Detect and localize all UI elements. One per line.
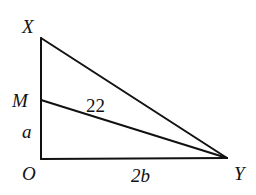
length-label-MY: 22 [86, 95, 105, 116]
point-label-M: M [11, 90, 29, 111]
segment-XY [41, 38, 227, 158]
segment-MY [41, 100, 227, 158]
point-label-X: X [21, 16, 35, 37]
length-label-OM: a [22, 121, 32, 142]
length-label-OY: 2b [131, 165, 150, 186]
triangle-diagram: X M O Y 22 a 2b [0, 0, 256, 195]
point-label-O: O [22, 163, 36, 184]
point-label-Y: Y [234, 163, 247, 184]
segment-OY [41, 158, 227, 159]
